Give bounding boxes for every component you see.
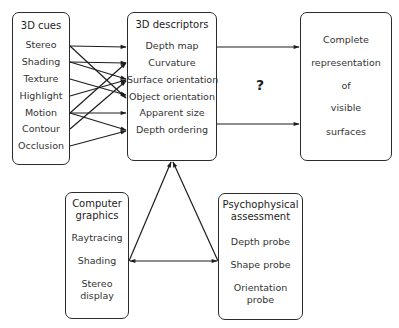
graphics-item: Raytracing	[65, 232, 129, 243]
graphics-title: Computer	[65, 198, 129, 209]
descriptors-title: 3D descriptors	[127, 19, 217, 30]
graphics-title: graphics	[65, 210, 129, 221]
descriptor-item: Surface orientation	[127, 74, 217, 85]
psycho-title: assessment	[218, 211, 303, 222]
psycho-item: Orientation	[218, 282, 303, 293]
cue-item: Stereo	[12, 39, 70, 50]
unknown-mapping-label: ?	[250, 77, 270, 93]
representation-line: of	[300, 80, 392, 91]
cue-item: Highlight	[12, 90, 70, 101]
descriptor-item: Object orientation	[127, 91, 217, 102]
representation-line: visible	[300, 102, 392, 113]
psycho-item: Depth probe	[218, 236, 303, 247]
descriptor-item: Apparent size	[127, 107, 217, 118]
descriptor-item: Depth map	[127, 40, 217, 51]
graphics-item: Shading	[65, 255, 129, 266]
cue-item: Contour	[12, 123, 70, 134]
psycho-item: Shape probe	[218, 259, 303, 270]
graphics-item: display	[65, 290, 129, 301]
representation-line: representation	[300, 57, 392, 68]
representation-line: Complete	[300, 34, 392, 45]
representation-line: surfaces	[300, 126, 392, 137]
cues-title: 3D cues	[12, 20, 70, 31]
descriptor-item: Depth ordering	[127, 124, 217, 135]
cue-item: Occlusion	[12, 140, 70, 151]
descriptor-item: Curvature	[127, 57, 217, 68]
cue-item: Texture	[12, 73, 70, 84]
psycho-title: Psychophysical	[218, 199, 303, 210]
graphics-item: Stereo	[65, 278, 129, 289]
cue-item: Shading	[12, 56, 70, 67]
descriptors-box	[127, 12, 217, 161]
cue-item: Motion	[12, 107, 70, 118]
psycho-item: probe	[218, 294, 303, 305]
